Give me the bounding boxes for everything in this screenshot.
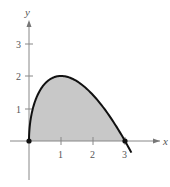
x-axis-arrow-icon — [153, 139, 160, 144]
y-tick-label-3: 3 — [16, 39, 21, 50]
x-tick-label-2: 2 — [90, 149, 95, 160]
y-axis-label: y — [24, 6, 30, 18]
chart: 1 2 3 1 2 3 x y — [0, 0, 170, 187]
point-x3 — [122, 138, 127, 143]
x-axis-label: x — [162, 135, 168, 147]
x-tick-label-1: 1 — [58, 149, 63, 160]
x-tick-label-3: 3 — [122, 149, 127, 160]
y-axis-arrow-icon — [27, 20, 32, 27]
y-tick-label-1: 1 — [16, 104, 21, 115]
point-origin — [26, 138, 31, 143]
y-tick-label-2: 2 — [16, 71, 21, 82]
